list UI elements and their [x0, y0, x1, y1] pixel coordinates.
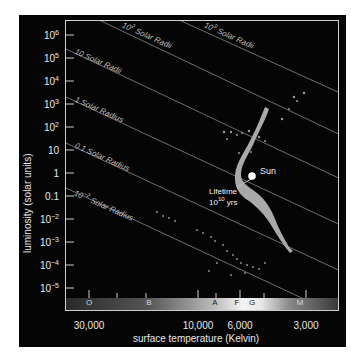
spectral-class-F: F	[235, 298, 240, 307]
x-tick-label: 30,000	[74, 320, 105, 331]
y-tick-label: 10−5	[19, 282, 59, 294]
y-tick-label: 105	[19, 52, 59, 64]
x-tick-label: 6,000	[227, 320, 252, 331]
x-axis-title: surface temperature (Kelvin)	[133, 333, 259, 344]
sun-label: Sun	[260, 166, 276, 176]
spectral-class-G: G	[249, 298, 255, 307]
x-tick-label: 10,000	[183, 320, 214, 331]
spectral-class-K: K	[273, 298, 278, 307]
spectral-class-A: A	[212, 298, 217, 307]
giant-stars	[223, 92, 305, 159]
x-tick-label: 3,000	[293, 320, 318, 331]
spectral-class-O: O	[86, 298, 92, 307]
y-tick-label: 102	[19, 121, 59, 133]
y-axis-title: luminosity (solar units)	[22, 154, 33, 253]
y-ticks	[66, 35, 74, 288]
chart-panel: 106 105 104 103 102 10 1 0.1 10−2 10−3 1…	[19, 15, 346, 347]
y-tick-label: 10−4	[19, 259, 59, 271]
y-tick-label: 106	[19, 29, 59, 41]
white-dwarf-stars	[156, 211, 266, 276]
spectral-class-M: M	[297, 298, 304, 307]
x-ticks	[89, 290, 306, 298]
sun-marker	[248, 172, 256, 180]
y-tick-label: 104	[19, 75, 59, 87]
lifetime-label: Lifetime1010 yrs	[209, 187, 237, 207]
y-tick-label: 103	[19, 98, 59, 110]
spectral-class-B: B	[146, 298, 151, 307]
